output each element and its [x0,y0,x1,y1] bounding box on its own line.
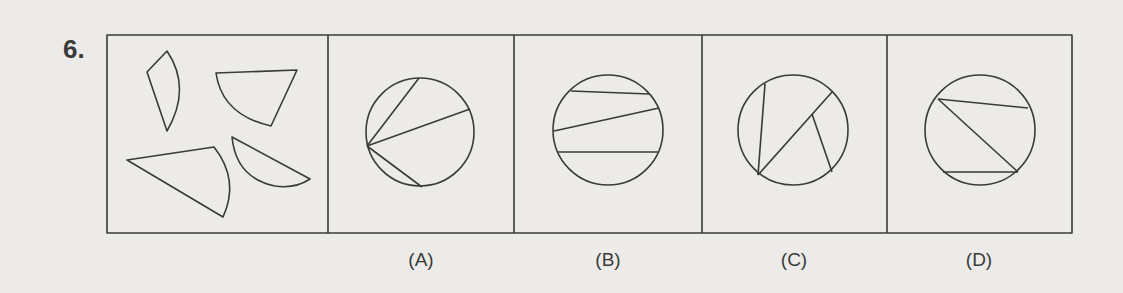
chord [367,146,422,187]
option-a-figure[interactable] [366,78,474,187]
piece-quarter-sector [216,70,297,126]
chord [367,109,470,146]
puzzle-figure [0,0,1123,293]
option-c-label[interactable]: (C) [781,249,807,271]
chord [571,91,649,94]
circle [366,78,474,186]
chord [758,84,765,175]
outer-frame [107,35,1072,233]
option-b-label[interactable]: (B) [595,249,620,271]
piece-large-sector [127,147,230,217]
circle [925,75,1035,185]
chord [938,99,1018,172]
option-b-figure[interactable] [553,75,663,185]
question-panel [127,51,310,217]
option-c-figure[interactable] [738,75,848,185]
chord [367,78,419,146]
option-a-label[interactable]: (A) [408,249,433,271]
circle [553,75,663,185]
option-d-figure[interactable] [925,75,1035,185]
chord [812,114,832,172]
chord [554,108,659,131]
option-d-label[interactable]: (D) [966,249,992,271]
piece-segment [232,137,310,187]
piece-thin-sector [147,51,180,131]
chord [758,92,832,175]
chord [938,99,1028,108]
